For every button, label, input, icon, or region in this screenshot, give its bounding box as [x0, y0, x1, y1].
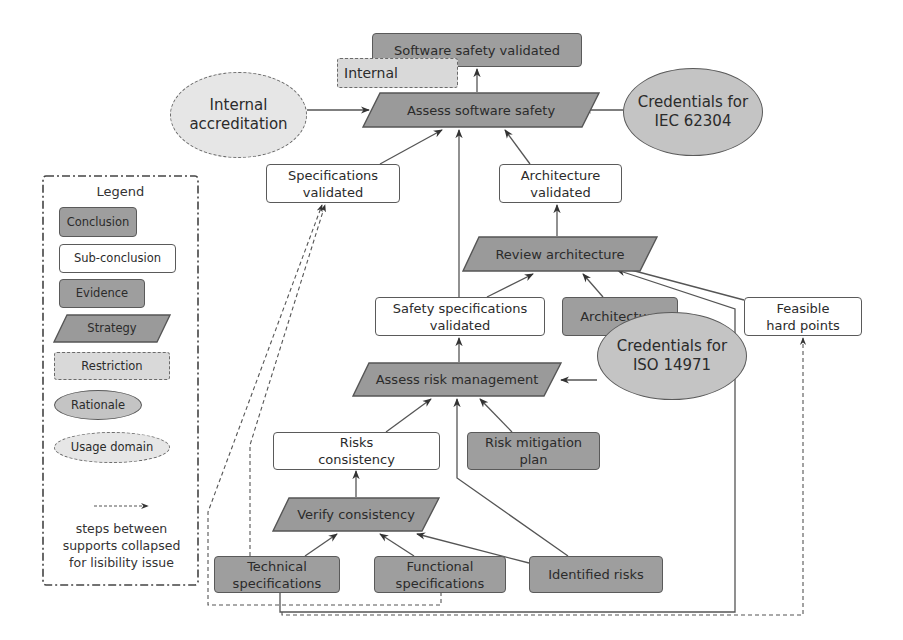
node-label-line2: specifications: [396, 575, 485, 592]
node-feasible-hard-points: Feasible hard points: [744, 297, 862, 336]
node-label-line2: ISO 14971: [633, 356, 711, 375]
node-label-line1: Specifications: [288, 167, 378, 184]
node-label-line1: Safety specifications: [393, 300, 527, 317]
edge-archval-to-assess: [505, 130, 530, 164]
edge-architecture-to-review: [583, 274, 603, 297]
node-label-line1: Architecture: [521, 167, 601, 184]
node-credentials-iso-14971: Credentials for ISO 14971: [597, 312, 747, 400]
node-label: Software safety validated: [394, 42, 560, 59]
node-label-line2: hard points: [766, 317, 840, 334]
node-label: Review architecture: [495, 246, 624, 263]
node-risks-consistency: Risks consistency: [273, 432, 440, 470]
node-label-line2: validated: [430, 317, 490, 334]
node-technical-specifications: Technical specifications: [214, 556, 340, 593]
node-identified-risks: Identified risks: [529, 556, 663, 593]
node-internal-accreditation: Internal accreditation: [170, 72, 307, 158]
node-label-line1: Risk mitigation: [485, 434, 582, 451]
legend-label: Usage domain: [71, 439, 154, 456]
node-label-line2: plan: [519, 451, 547, 468]
node-label-line1: Risks: [340, 434, 374, 451]
node-risk-mitigation-plan: Risk mitigation plan: [467, 432, 600, 470]
node-specifications-validated: Specifications validated: [266, 164, 400, 203]
node-label-line1: Credentials for: [638, 93, 748, 112]
edge-mitigation-to-riskmgmt: [480, 399, 512, 432]
legend-label: Evidence: [76, 285, 128, 302]
legend-item-strategy: Strategy: [53, 314, 171, 343]
legend-item-conclusion: Conclusion: [59, 207, 137, 237]
edge-safetyspecs-to-review: [487, 274, 533, 297]
node-label: Assess risk management: [376, 371, 539, 388]
node-architecture-validated: Architecture validated: [499, 164, 622, 203]
node-functional-specifications: Functional specifications: [374, 556, 506, 593]
legend-note-line2: supports collapsed: [44, 537, 199, 554]
node-label-line1: Credentials for: [617, 337, 727, 356]
node-label-line2: validated: [303, 184, 363, 201]
legend-label: Conclusion: [67, 214, 130, 231]
node-label-line1: Feasible: [777, 300, 830, 317]
node-label: Verify consistency: [297, 506, 415, 523]
edge-identified-to-riskmgmt: [457, 399, 568, 556]
legend-title: Legend: [42, 184, 199, 199]
legend-item-rationale: Rationale: [54, 390, 142, 420]
node-assess-risk-management: Assess risk management: [352, 362, 562, 397]
node-label-line1: Internal: [210, 96, 268, 115]
node-safety-specifications-validated: Safety specifications validated: [375, 297, 545, 336]
legend-label: Sub-conclusion: [74, 250, 161, 267]
legend-note: steps between supports collapsed for lis…: [44, 520, 199, 571]
legend-label: Rationale: [71, 397, 125, 414]
edge-technical-to-verify: [305, 534, 337, 556]
edge-functional-to-specs-dashed: [208, 205, 441, 605]
node-verify-consistency: Verify consistency: [272, 497, 440, 532]
node-assess-software-safety: Assess software safety: [362, 92, 600, 128]
node-label-line2: specifications: [233, 575, 322, 592]
node-label: Internal: [344, 65, 398, 82]
edge-specs-to-assess: [380, 130, 442, 164]
legend-dashed-arrow-icon: [92, 499, 152, 513]
node-label: Assess software safety: [407, 102, 555, 119]
legend-label: Restriction: [81, 358, 142, 375]
legend-note-line3: for lisibility issue: [44, 554, 199, 571]
node-label-line2: consistency: [318, 451, 395, 468]
node-label-line1: Technical: [247, 558, 307, 575]
legend-item-usage-domain: Usage domain: [54, 432, 170, 463]
node-label: Identified risks: [548, 566, 644, 583]
edge-riskcons-to-riskmgmt: [386, 399, 431, 432]
node-internal-restriction: Internal: [337, 58, 458, 88]
legend-item-evidence: Evidence: [59, 279, 145, 308]
edge-functional-to-verify: [380, 534, 414, 556]
node-review-architecture: Review architecture: [462, 236, 658, 272]
node-credentials-iec-62304: Credentials for IEC 62304: [623, 68, 763, 156]
legend-item-sub-conclusion: Sub-conclusion: [59, 244, 176, 273]
legend-item-restriction: Restriction: [54, 352, 170, 380]
node-label-line2: accreditation: [189, 115, 287, 134]
node-label-line2: IEC 62304: [655, 112, 732, 131]
node-label-line1: Functional: [407, 558, 474, 575]
legend-note-line1: steps between: [44, 520, 199, 537]
legend-label: Strategy: [87, 320, 136, 337]
node-label-line2: validated: [530, 184, 590, 201]
